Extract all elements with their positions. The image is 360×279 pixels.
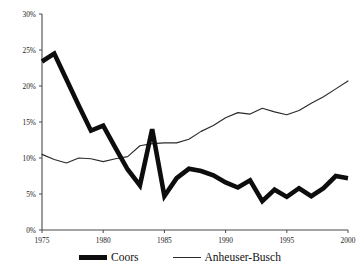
- y-tick-label: 5%: [26, 190, 36, 199]
- chart-container: 0%5%10%15%20%25%30% 19751980198519901995…: [0, 0, 360, 279]
- legend-item-coors: Coors: [79, 252, 138, 264]
- chart-legend: Coors Anheuser-Busch: [0, 252, 360, 264]
- line-chart: 0%5%10%15%20%25%30% 19751980198519901995…: [0, 0, 360, 279]
- legend-label-coors: Coors: [111, 252, 138, 264]
- x-tick-label: 1975: [35, 236, 50, 245]
- series-line-coors: [42, 54, 348, 202]
- y-tick-label: 20%: [22, 82, 36, 91]
- x-tick-label: 1980: [96, 236, 111, 245]
- x-tick-label: 2000: [341, 236, 356, 245]
- y-axis: 0%5%10%15%20%25%30%: [22, 10, 42, 235]
- x-axis: 197519801985199019952000: [35, 230, 356, 245]
- y-tick-label: 15%: [22, 118, 36, 127]
- x-tick-label: 1985: [157, 236, 172, 245]
- legend-swatch-coors-icon: [79, 255, 107, 260]
- y-tick-label: 25%: [22, 46, 36, 55]
- legend-item-anheuser-busch: Anheuser-Busch: [173, 252, 281, 264]
- legend-label-anheuser-busch: Anheuser-Busch: [205, 252, 281, 264]
- legend-swatch-anheuser-busch-icon: [173, 257, 201, 258]
- x-tick-label: 1990: [218, 236, 233, 245]
- y-axis-ticks: 0%5%10%15%20%25%30%: [22, 10, 42, 235]
- x-axis-ticks: 197519801985199019952000: [35, 230, 356, 245]
- y-tick-label: 0%: [26, 226, 36, 235]
- y-tick-label: 10%: [22, 154, 36, 163]
- x-tick-label: 1995: [279, 236, 294, 245]
- y-tick-label: 30%: [22, 10, 36, 19]
